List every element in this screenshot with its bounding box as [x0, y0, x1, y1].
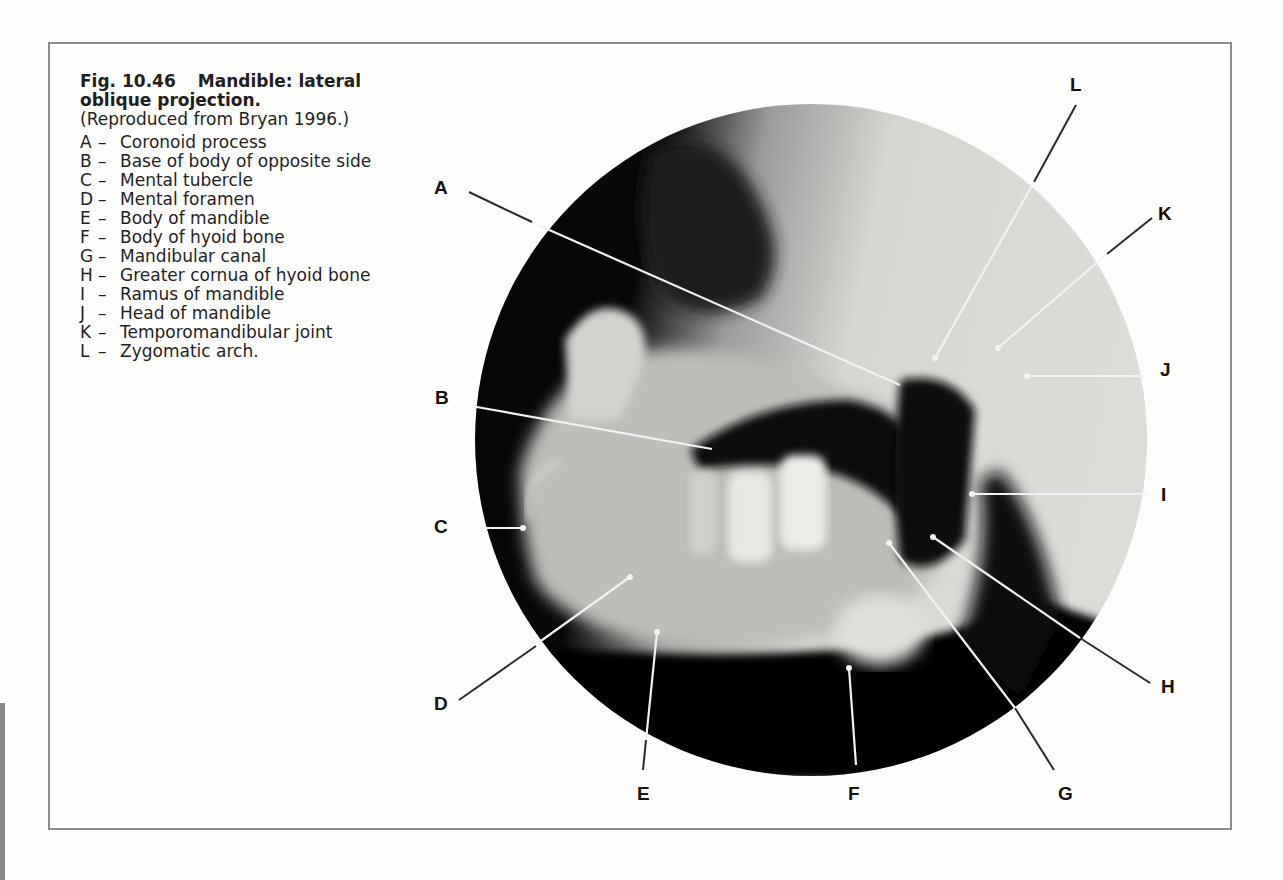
- callout-G: G: [1058, 783, 1073, 804]
- radiograph-disk: [470, 100, 1160, 780]
- xray-figure: A B C D E F G H I J K L: [0, 0, 1283, 880]
- callout-D: D: [434, 693, 448, 714]
- callout-C: C: [434, 516, 448, 537]
- callout-K: K: [1158, 203, 1172, 224]
- callout-E: E: [637, 783, 650, 804]
- callout-F: F: [848, 783, 860, 804]
- callout-B: B: [435, 387, 449, 408]
- callout-L: L: [1070, 74, 1082, 95]
- callout-I: I: [1161, 484, 1166, 505]
- callout-J: J: [1160, 359, 1171, 380]
- callout-A: A: [434, 177, 448, 198]
- callout-H: H: [1161, 676, 1175, 697]
